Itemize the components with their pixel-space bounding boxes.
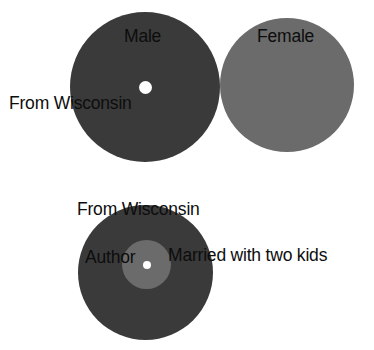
diagram-canvas: Male From Wisconsin Female From Wisconsi…	[0, 0, 374, 350]
label-male: Male	[124, 28, 161, 46]
male-center-dot	[139, 81, 152, 94]
author-center-dot	[143, 261, 151, 269]
label-female: Female	[257, 28, 314, 46]
label-author: Author	[85, 249, 135, 267]
label-from-wisconsin-bottom: From Wisconsin	[77, 201, 200, 219]
label-from-wisconsin-top: From Wisconsin	[9, 95, 132, 113]
label-married-with-two-kids: Married with two kids	[168, 247, 327, 265]
